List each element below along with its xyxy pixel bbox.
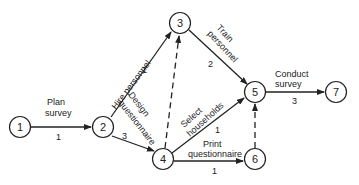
node-6-label: 6 <box>252 153 258 165</box>
node-7-label: 7 <box>333 86 339 98</box>
node-5: 5 <box>245 82 266 103</box>
edge-5-7-duration: 3 <box>292 96 297 106</box>
edge-1-2-duration: 1 <box>56 132 61 142</box>
edge-4-6-label-line1: Print <box>203 139 222 149</box>
node-1-label: 1 <box>17 121 23 133</box>
edge-3-5-duration: 2 <box>208 59 213 69</box>
node-1: 1 <box>10 117 31 138</box>
edge-4-3-dummy <box>165 36 179 148</box>
edge-5-7-label-line2: survey <box>275 79 302 89</box>
edge-4-6-duration: 1 <box>212 166 217 176</box>
node-3-label: 3 <box>177 17 183 29</box>
edge-5-7-label-line1: Conduct <box>275 69 309 79</box>
node-4-label: 4 <box>160 153 166 165</box>
network-diagram: Plan survey 1 Hire personnel 1 Design qu… <box>0 0 359 185</box>
edge-2-3-duration: 1 <box>142 65 147 75</box>
diagram-svg: Plan survey 1 Hire personnel 1 Design qu… <box>0 0 359 185</box>
edge-1-2-label-line2: survey <box>45 108 72 118</box>
node-4: 4 <box>153 149 174 170</box>
edge-1-2-label-line1: Plan <box>47 97 65 107</box>
node-2-label: 2 <box>100 121 106 133</box>
node-3: 3 <box>170 13 191 34</box>
node-7: 7 <box>326 82 347 103</box>
edge-4-5-duration: 1 <box>215 125 220 135</box>
edge-2-4-duration: 3 <box>122 131 127 141</box>
node-6: 6 <box>245 149 266 170</box>
node-5-label: 5 <box>252 86 258 98</box>
edge-4-6-label-line2: questionnaire <box>188 149 242 159</box>
node-2: 2 <box>93 117 114 138</box>
